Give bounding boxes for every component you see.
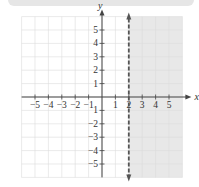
svg-text:−5: −5 <box>30 100 40 110</box>
svg-text:y: y <box>97 0 103 11</box>
svg-text:−3: −3 <box>88 132 98 142</box>
svg-text:5: 5 <box>167 100 172 110</box>
svg-text:−4: −4 <box>88 146 98 156</box>
svg-text:3: 3 <box>93 52 98 62</box>
svg-text:3: 3 <box>140 100 145 110</box>
svg-text:−4: −4 <box>43 100 53 110</box>
svg-text:4: 4 <box>153 100 158 110</box>
svg-text:1: 1 <box>113 100 118 110</box>
svg-text:−2: −2 <box>70 100 80 110</box>
svg-text:−2: −2 <box>88 119 98 129</box>
svg-text:2: 2 <box>93 65 98 75</box>
svg-text:−5: −5 <box>88 159 98 169</box>
svg-text:5: 5 <box>93 25 98 35</box>
svg-text:x: x <box>193 91 199 102</box>
svg-text:−3: −3 <box>57 100 67 110</box>
svg-text:1: 1 <box>93 105 98 115</box>
inequality-graph: xy−5−4−3−2−112345543211−2−3−4−5 <box>0 0 199 187</box>
svg-text:4: 4 <box>93 38 98 48</box>
svg-text:1: 1 <box>93 79 98 89</box>
